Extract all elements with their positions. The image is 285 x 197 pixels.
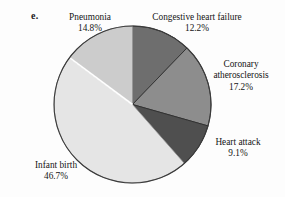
callout-infant-birth-value: 46.7% <box>14 171 98 182</box>
callout-coronary-atherosclerosis-label-line1: Coronary <box>200 59 282 70</box>
callout-coronary-atherosclerosis-value: 17.2% <box>200 82 282 93</box>
callout-heart-attack-label: Heart attack <box>196 137 280 148</box>
callout-pneumonia: Pneumonia 14.8% <box>48 12 132 35</box>
callout-pneumonia-label: Pneumonia <box>48 12 132 23</box>
callout-congestive-heart-failure: Congestive heart failure 12.2% <box>132 12 262 35</box>
pie-chart-figure: e. Pneumonia 14.8% Congestive heart fail… <box>0 0 285 197</box>
callout-coronary-atherosclerosis: Coronary atherosclerosis 17.2% <box>200 59 282 93</box>
callout-coronary-atherosclerosis-label-line2: atherosclerosis <box>200 70 282 81</box>
callout-heart-attack: Heart attack 9.1% <box>196 137 280 160</box>
callout-infant-birth: Infant birth 46.7% <box>14 160 98 183</box>
callout-heart-attack-value: 9.1% <box>196 148 280 159</box>
callout-congestive-heart-failure-value: 12.2% <box>132 23 262 34</box>
callout-infant-birth-label: Infant birth <box>14 160 98 171</box>
callout-pneumonia-value: 14.8% <box>48 23 132 34</box>
callout-congestive-heart-failure-label: Congestive heart failure <box>132 12 262 23</box>
